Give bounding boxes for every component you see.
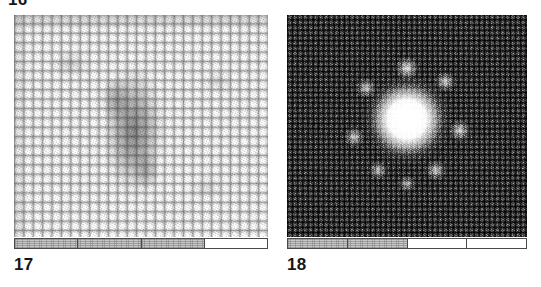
scalebar-segment <box>78 239 141 248</box>
lattice-texture-dark <box>287 15 527 237</box>
texture-edge-shading <box>14 15 268 237</box>
micrograph-image-18 <box>287 15 527 237</box>
scalebar-segment <box>408 239 468 248</box>
micrograph-image-17 <box>14 15 268 237</box>
scalebar-17 <box>14 238 268 249</box>
panel-caption-18: 18 <box>287 256 527 274</box>
figure-label-top-cut: 16 <box>8 0 27 8</box>
scalebar-18 <box>287 238 527 249</box>
panel-left: 17 <box>14 15 268 274</box>
lattice-texture-light <box>14 15 268 237</box>
figure-root: 16 17 18 <box>0 0 541 287</box>
panel-caption-17: 17 <box>14 256 268 274</box>
scalebar-segment <box>467 239 526 248</box>
scalebar-segment <box>288 239 348 248</box>
panel-right: 18 <box>287 15 527 274</box>
texture-vignette-overlay <box>287 15 527 237</box>
scalebar-segment <box>205 239 267 248</box>
scalebar-segment <box>15 239 78 248</box>
scalebar-segment <box>142 239 205 248</box>
scalebar-segment <box>348 239 408 248</box>
